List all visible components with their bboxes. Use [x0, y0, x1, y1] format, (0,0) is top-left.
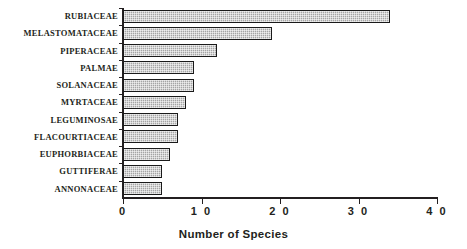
category-label: EUPHORBIACEAE [0, 146, 118, 163]
table-row [123, 163, 437, 180]
category-label: GUTTIFERAE [0, 163, 118, 180]
table-row [123, 8, 437, 25]
category-label: RUBIACEAE [0, 8, 118, 25]
bar-rows [123, 8, 437, 198]
x-axis-tick-label: 2 0 [250, 205, 310, 217]
bar [123, 148, 170, 161]
table-row [123, 112, 437, 129]
bar [123, 113, 178, 126]
bar [123, 96, 186, 109]
table-row [123, 60, 437, 77]
category-label: SOLANACEAE [0, 77, 118, 94]
table-row [123, 129, 437, 146]
category-label: PALMAE [0, 60, 118, 77]
bar [123, 182, 162, 195]
category-label: ANNONACEAE [0, 181, 118, 198]
category-axis-labels: RUBIACEAE MELASTOMATACEAE PIPERACEAE PAL… [0, 8, 118, 198]
bar [123, 27, 272, 40]
category-label: MELASTOMATACEAE [0, 25, 118, 42]
table-row [123, 181, 437, 198]
category-label: MYRTACEAE [0, 94, 118, 111]
x-axis-tick [280, 199, 281, 204]
bar-chart: RUBIACEAE MELASTOMATACEAE PIPERACEAE PAL… [0, 0, 467, 249]
table-row [123, 77, 437, 94]
x-axis-tick-label: 0 [93, 205, 153, 217]
bar [123, 130, 178, 143]
x-axis-tick [359, 199, 360, 204]
table-row [123, 94, 437, 111]
x-axis-tick-label: 3 0 [329, 205, 389, 217]
bar [123, 44, 217, 57]
category-label: PIPERACEAE [0, 43, 118, 60]
table-row [123, 146, 437, 163]
bar [123, 10, 390, 23]
table-row [123, 25, 437, 42]
x-axis-tick [437, 199, 438, 204]
table-row [123, 43, 437, 60]
x-axis-tick-label: 4 0 [407, 205, 467, 217]
x-axis-tick [123, 199, 124, 204]
x-axis-tick [202, 199, 203, 204]
category-label: FLACOURTIACEAE [0, 129, 118, 146]
x-axis-title: Number of Species [0, 228, 467, 240]
category-label: LEGUMINOSAE [0, 112, 118, 129]
bar [123, 61, 194, 74]
bar [123, 165, 162, 178]
plot-area [123, 8, 437, 198]
bar [123, 79, 194, 92]
x-axis-tick-label: 1 0 [172, 205, 232, 217]
